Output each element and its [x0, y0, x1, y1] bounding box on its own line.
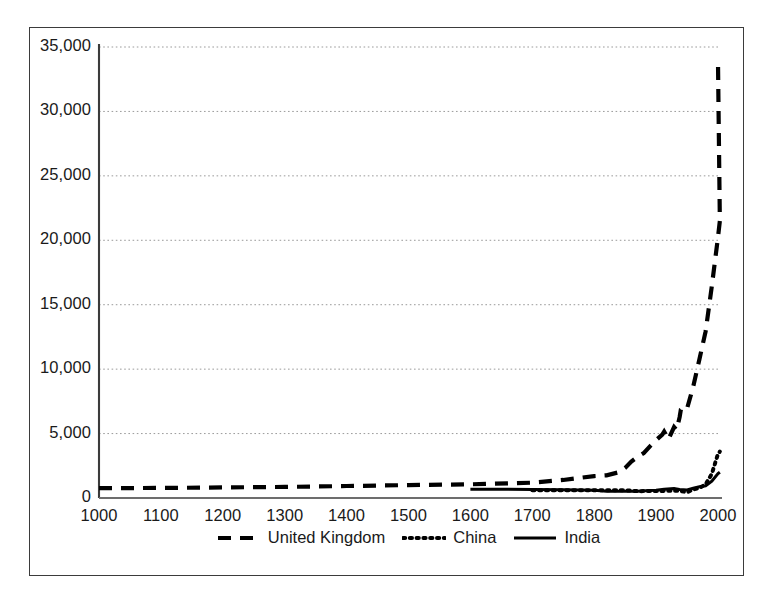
y-tick-label-35000: 35,000 [40, 36, 91, 55]
y-tick-label-20000: 20,000 [40, 229, 91, 248]
series-line-united-kingdom [99, 62, 720, 488]
y-tick-label-10000: 10,000 [40, 358, 91, 377]
legend-swatch-dotted [402, 531, 446, 545]
legend-label: United Kingdom [268, 528, 385, 547]
y-tick-label-15000: 15,000 [40, 294, 91, 313]
y-tick-label-0: 0 [82, 487, 91, 506]
legend-item-india: India [513, 528, 600, 547]
y-tick-label-30000: 30,000 [40, 100, 91, 119]
legend-item-china: China [402, 528, 496, 547]
y-tick-label-25000: 25,000 [40, 165, 91, 184]
x-tick-label-2000: 2000 [678, 506, 758, 525]
legend-swatch-solid [513, 531, 557, 545]
chart-figure: 05,00010,00015,00020,00025,00030,00035,0… [0, 0, 768, 601]
legend-label: China [453, 528, 496, 547]
legend-label: India [564, 528, 600, 547]
legend-swatch-dashed [217, 531, 261, 545]
y-tick-label-5000: 5,000 [49, 423, 91, 442]
series-line-china [532, 452, 720, 493]
chart-legend: United KingdomChinaIndia [99, 528, 718, 547]
legend-item-united-kingdom: United Kingdom [217, 528, 385, 547]
